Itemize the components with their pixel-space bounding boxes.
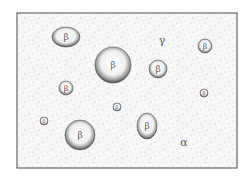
beta-label: β bbox=[203, 42, 208, 51]
beta-label: β bbox=[43, 118, 46, 125]
beta-label: β bbox=[77, 130, 82, 140]
beta-label: β bbox=[144, 121, 149, 131]
beta-particle: β bbox=[52, 27, 80, 47]
beta-label: β bbox=[155, 64, 160, 74]
beta-label: β bbox=[63, 32, 68, 42]
beta-particle: β bbox=[149, 60, 167, 78]
beta-particle: β bbox=[40, 117, 48, 125]
beta-particle: β bbox=[65, 120, 95, 150]
beta-particle: β bbox=[198, 39, 212, 53]
beta-label: β bbox=[110, 60, 115, 70]
phase-label: α bbox=[180, 136, 188, 149]
beta-particle: β bbox=[95, 47, 131, 83]
phase-label: γ bbox=[159, 34, 166, 47]
beta-label: β bbox=[64, 84, 69, 93]
beta-particle: β bbox=[113, 103, 121, 111]
beta-particle: β bbox=[200, 89, 208, 97]
beta-particle: β bbox=[59, 81, 73, 95]
beta-particle: β bbox=[137, 113, 157, 139]
beta-label: β bbox=[203, 90, 206, 97]
beta-label: β bbox=[116, 104, 119, 111]
microstructure-diagram: ββββββββββ γα bbox=[0, 0, 247, 177]
